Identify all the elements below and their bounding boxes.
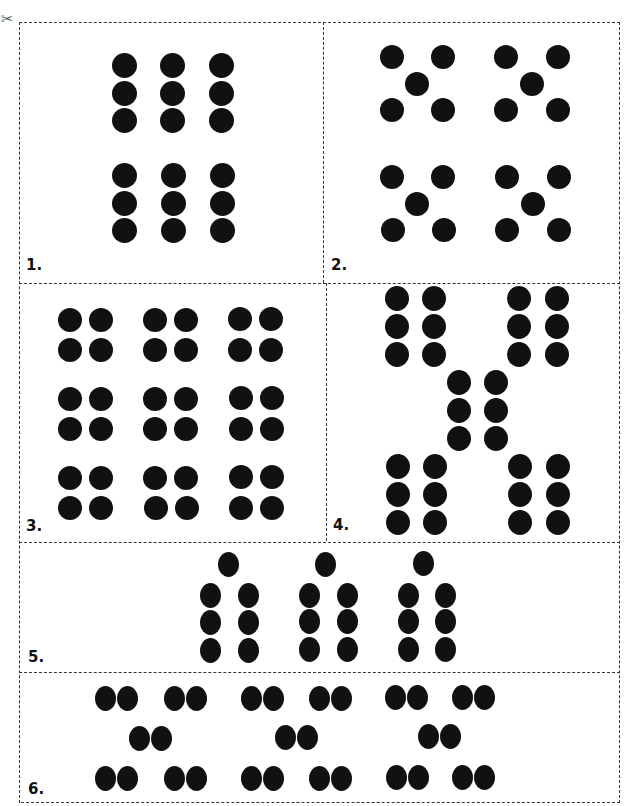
dot — [229, 496, 253, 520]
dot — [241, 686, 262, 711]
dot — [95, 686, 116, 711]
dot — [508, 454, 532, 479]
dot — [385, 314, 409, 339]
dot — [263, 766, 284, 791]
dot — [386, 482, 410, 507]
dot — [259, 307, 283, 331]
dot — [143, 466, 167, 490]
card-number-label: 2. — [331, 256, 347, 274]
dot — [117, 766, 138, 791]
dot-card-2 — [323, 22, 620, 283]
dot — [229, 417, 253, 441]
dot — [174, 466, 198, 490]
cut-out-dot-cards-sheet: ✂ 1.2.3.4.5.6. — [0, 0, 631, 806]
dot — [112, 53, 137, 78]
dot — [95, 766, 116, 791]
dot — [547, 165, 571, 189]
dot — [309, 766, 330, 791]
dot — [241, 766, 262, 791]
dot — [161, 218, 186, 243]
dot — [89, 417, 113, 441]
dot — [431, 165, 455, 189]
dot — [545, 342, 569, 367]
dot — [423, 454, 447, 479]
dot — [435, 583, 456, 608]
dot — [520, 72, 544, 96]
dot — [474, 685, 495, 710]
card-number-label: 4. — [333, 516, 349, 534]
dot — [494, 98, 518, 122]
dot — [546, 45, 570, 69]
dot — [160, 81, 185, 106]
dot — [547, 218, 571, 242]
dot — [385, 286, 409, 311]
dot — [174, 308, 198, 332]
dot — [405, 72, 429, 96]
dot — [422, 342, 446, 367]
dot — [175, 496, 199, 520]
dot — [546, 510, 570, 535]
dot — [260, 386, 284, 410]
dot — [423, 482, 447, 507]
dot — [508, 510, 532, 535]
dot — [435, 609, 456, 634]
dot — [89, 387, 113, 411]
dot — [260, 496, 284, 520]
dot-card-4 — [326, 280, 620, 541]
dot — [112, 163, 137, 188]
dot — [143, 387, 167, 411]
dot — [447, 370, 471, 395]
dot — [161, 191, 186, 216]
dot — [238, 610, 259, 635]
dot — [398, 583, 419, 608]
dot — [174, 338, 198, 362]
dot — [151, 726, 172, 751]
dot — [422, 314, 446, 339]
dot — [299, 583, 320, 608]
dot — [200, 638, 221, 663]
dot — [331, 766, 352, 791]
dot — [494, 45, 518, 69]
dot — [331, 686, 352, 711]
dot — [507, 286, 531, 311]
dot — [58, 308, 82, 332]
dot — [174, 387, 198, 411]
cut-line-row3-bottom — [19, 672, 620, 673]
dot — [238, 638, 259, 663]
dot — [89, 308, 113, 332]
dot — [507, 314, 531, 339]
dot — [229, 386, 253, 410]
dot — [186, 686, 207, 711]
dot — [112, 108, 137, 133]
dot — [546, 482, 570, 507]
dot — [452, 765, 473, 790]
dot — [58, 496, 82, 520]
card-number-label: 3. — [26, 517, 42, 535]
dot — [144, 496, 168, 520]
scissors-icon: ✂ — [1, 12, 14, 27]
dot — [507, 342, 531, 367]
dot — [386, 765, 407, 790]
dot — [408, 765, 429, 790]
dot — [521, 192, 545, 216]
dot — [380, 165, 404, 189]
dot — [385, 342, 409, 367]
dot — [440, 724, 461, 749]
dot — [161, 163, 186, 188]
dot — [431, 45, 455, 69]
dot — [398, 609, 419, 634]
dot — [58, 338, 82, 362]
dot — [89, 338, 113, 362]
dot — [386, 510, 410, 535]
dot — [160, 108, 185, 133]
card-number-label: 6. — [28, 780, 44, 798]
dot — [229, 465, 253, 489]
dot — [275, 725, 296, 750]
dot — [422, 286, 446, 311]
dot — [386, 454, 410, 479]
dot — [418, 724, 439, 749]
dot — [112, 218, 137, 243]
dot — [484, 426, 508, 451]
dot — [164, 766, 185, 791]
dot — [435, 637, 456, 662]
